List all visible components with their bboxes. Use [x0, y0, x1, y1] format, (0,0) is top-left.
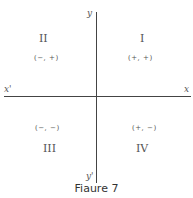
- y-prime-axis-label: y': [86, 171, 94, 181]
- figure-caption: Fiaure 7: [0, 182, 193, 195]
- quadrant-4-numeral: IV: [136, 142, 148, 155]
- x-axis-label: x: [184, 84, 189, 94]
- y-axis-label: y: [87, 8, 92, 18]
- quadrant-2-signs: (−, +): [34, 54, 59, 62]
- quadrant-3-numeral: III: [43, 142, 56, 155]
- x-axis-line: [4, 96, 191, 97]
- quadrant-3-signs: (−, −): [35, 124, 60, 132]
- y-axis-line: [96, 12, 97, 183]
- quadrant-1-signs: (+, +): [128, 54, 153, 62]
- quadrant-4-signs: (+, −): [132, 124, 157, 132]
- quadrant-2-numeral: II: [39, 32, 48, 45]
- x-prime-axis-label: x': [4, 84, 12, 94]
- quadrant-1-numeral: I: [140, 32, 144, 45]
